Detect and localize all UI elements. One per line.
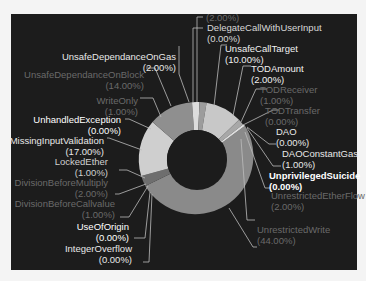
label-division-before-multiply: DivisionBeforeMultiply (2.00%) [15, 177, 108, 199]
chart-panel: (2.00%) DelegateCallWithUserInput (0.00%… [11, 14, 357, 270]
label-dao-constant-gas: DAOConstantGas (1.00%) [282, 148, 358, 170]
label-dao: DAO (0.00%) [276, 126, 309, 148]
label-tod-amount: TODAmount (2.00%) [251, 63, 304, 85]
label-unsafe-call-target: UnsafeCallTarget (10.00%) [225, 43, 298, 65]
label-unsafe-dependance-on-block: UnsafeDependanceOnBlock (14.00%) [24, 69, 144, 91]
label-locked-ether: LockedEther (1.00%) [55, 156, 108, 178]
label-delegate-call: DelegateCallWithUserInput (0.00%) [207, 22, 322, 44]
label-unrestricted-ether-flow: UnrestrictedEtherFlow (2.00%) [271, 190, 365, 212]
label-unhandled-exception: UnhandledException (0.00%) [33, 114, 121, 136]
label-unrestricted-write: UnrestrictedWrite (44.00%) [257, 224, 330, 246]
label-tod-transfer: TODTransfer (0.00%) [265, 105, 320, 127]
label-missing-input-validation: MissingInputValidation (17.00%) [10, 135, 104, 157]
donut-hole [167, 130, 227, 190]
label-unprivileged-suicide: UnprivilegedSuicide (0.00%) [269, 170, 360, 192]
label-integer-overflow: IntegerOverflow (0.00%) [65, 243, 132, 265]
label-use-of-origin: UseOfOrigin (0.00%) [77, 221, 129, 243]
label-division-before-callvalue: DivisionBeforeCallvalue (1.00%) [15, 198, 115, 220]
label-tod-receiver: TODReceiver (1.00%) [260, 84, 317, 106]
